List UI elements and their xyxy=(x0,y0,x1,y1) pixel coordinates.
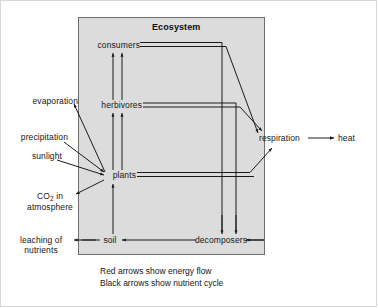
node-soil[interactable]: soil xyxy=(103,235,116,245)
node-herbivores[interactable]: herbivores xyxy=(101,100,142,110)
node-decomposers[interactable]: decomposers xyxy=(195,235,247,245)
co2-subscript: 2 xyxy=(50,195,54,202)
node-heat[interactable]: heat xyxy=(338,133,355,143)
node-precipitation[interactable]: precipitation xyxy=(21,132,68,142)
ecosystem-diagram: Ecosystem consumers herbivores plants so… xyxy=(0,0,378,308)
leaching-line2: nutrients xyxy=(24,245,58,255)
leaching-line1: leaching of xyxy=(20,235,62,245)
node-respiration[interactable]: respiration xyxy=(259,133,300,143)
node-leaching-nutrients[interactable]: leaching of nutrients xyxy=(20,235,62,255)
ecosystem-title: Ecosystem xyxy=(152,22,200,32)
co2-label-line1: CO2 in xyxy=(37,191,63,201)
co2-label-line2: atmosphere xyxy=(27,202,73,212)
node-plants[interactable]: plants xyxy=(113,170,136,180)
node-evaporation[interactable]: evaporation xyxy=(32,96,78,106)
ecosystem-box xyxy=(79,18,265,255)
node-co2-atmosphere[interactable]: CO2 in atmosphere xyxy=(27,191,73,212)
node-consumers[interactable]: consumers xyxy=(98,40,140,50)
legend-caption: Red arrows show energy flow Black arrows… xyxy=(100,266,223,289)
node-sunlight[interactable]: sunlight xyxy=(32,151,62,161)
